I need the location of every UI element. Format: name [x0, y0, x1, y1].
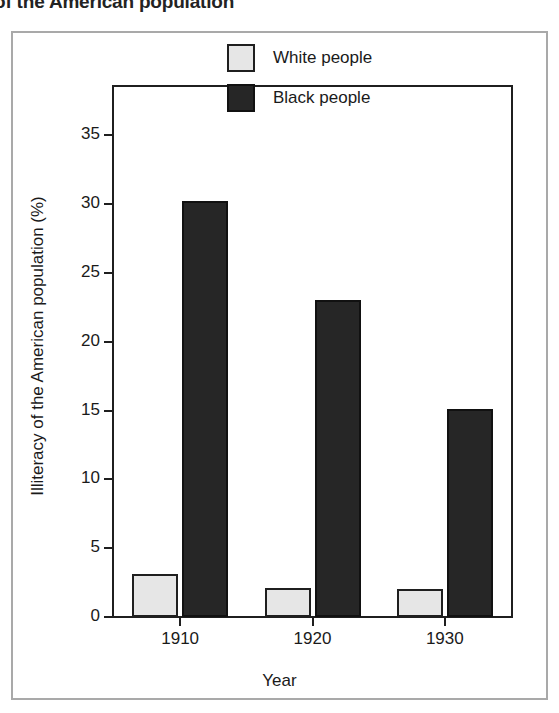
y-tick-label: 5: [91, 537, 100, 557]
legend-label-white: White people: [273, 48, 372, 68]
x-axis-tick: [312, 617, 314, 626]
x-axis-tick: [444, 617, 446, 626]
x-tick-label: 1910: [161, 629, 199, 649]
y-tick-mark: [104, 478, 112, 480]
y-axis-title: Illiteracy of the American population (%…: [28, 106, 48, 586]
y-tick-label: 30: [81, 193, 100, 213]
x-tick-label: 1930: [426, 629, 464, 649]
x-axis-title: Year: [11, 671, 548, 691]
legend-item-white: White people: [227, 41, 397, 75]
bar-black-people-1920: [315, 300, 361, 617]
bar-black-people-1910: [182, 201, 228, 617]
bar-chart: 05101520253035 Illiteracy of the America…: [11, 31, 548, 700]
x-axis-tick: [179, 617, 181, 626]
y-tick-mark: [104, 616, 112, 618]
bar-white-people-1930: [397, 589, 443, 617]
y-tick-label: 10: [81, 468, 100, 488]
y-tick-mark: [104, 134, 112, 136]
y-tick-label: 20: [81, 331, 100, 351]
bar-white-people-1920: [265, 588, 311, 617]
y-tick-label: 35: [81, 124, 100, 144]
y-tick-mark: [104, 341, 112, 343]
y-tick-label: 15: [81, 400, 100, 420]
y-tick-mark: [104, 410, 112, 412]
plot-area: [114, 87, 511, 617]
y-tick-mark: [104, 272, 112, 274]
page-heading-partial: of the American population: [0, 0, 559, 15]
legend-item-black: Black people: [227, 81, 397, 115]
chart-legend: White people Black people: [227, 41, 397, 121]
y-tick-label: 0: [91, 606, 100, 626]
y-tick-label: 25: [81, 262, 100, 282]
bar-black-people-1930: [447, 409, 493, 617]
x-tick-label: 1920: [294, 629, 332, 649]
legend-swatch-black-icon: [227, 84, 255, 112]
y-tick-mark: [104, 547, 112, 549]
y-axis: 05101520253035: [11, 31, 112, 700]
legend-label-black: Black people: [273, 88, 370, 108]
legend-swatch-white-icon: [227, 44, 255, 72]
bar-white-people-1910: [132, 574, 178, 617]
y-tick-mark: [104, 203, 112, 205]
